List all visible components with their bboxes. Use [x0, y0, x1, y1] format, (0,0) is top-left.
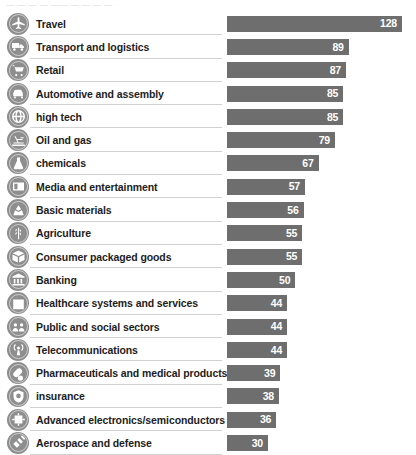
bar-track: 38 [227, 385, 416, 408]
category-label: insurance [36, 390, 85, 402]
bar-track: 57 [227, 175, 416, 198]
chart-row: Banking50 [0, 268, 416, 291]
value-label: 87 [330, 65, 341, 76]
bar-track: 36 [227, 408, 416, 431]
value-bar: 57 [227, 179, 305, 195]
minerals-icon [7, 199, 29, 221]
value-bar: 85 [227, 86, 343, 102]
value-label: 30 [252, 438, 263, 449]
category-label: Telecommunications [36, 344, 138, 356]
chart-row: Agriculture55 [0, 222, 416, 245]
bar-track: 44 [227, 292, 416, 315]
value-bar: 50 [227, 272, 295, 288]
value-label: 44 [271, 345, 282, 356]
category-label: Retail [36, 64, 64, 76]
value-label: 79 [319, 135, 330, 146]
clipped-header-strip: — — — — —— — — — — [6, 0, 410, 8]
category-label: Basic materials [36, 204, 112, 216]
bar-track: 55 [227, 245, 416, 268]
value-bar: 55 [227, 225, 302, 241]
category-label: Healthcare systems and services [36, 297, 198, 309]
category-label: Media and entertainment [36, 181, 157, 193]
category-label: Consumer packaged goods [36, 251, 171, 263]
value-bar: 44 [227, 295, 287, 311]
pill-icon [7, 362, 29, 384]
value-label: 128 [380, 18, 397, 29]
chart-row: Healthcare systems and services44 [0, 292, 416, 315]
value-label: 55 [286, 228, 297, 239]
car-icon [7, 83, 29, 105]
value-bar: 55 [227, 249, 302, 265]
category-label: Automotive and assembly [36, 88, 164, 100]
airplane-icon [7, 13, 29, 35]
value-label: 56 [287, 205, 298, 216]
category-label: Travel [36, 18, 66, 30]
chart-row: Telecommunications44 [0, 338, 416, 361]
package-icon [7, 246, 29, 268]
chip-icon [7, 409, 29, 431]
oil-rig-icon [7, 129, 29, 151]
antenna-icon [7, 339, 29, 361]
value-label: 44 [271, 298, 282, 309]
bank-icon [7, 269, 29, 291]
bar-track: 85 [227, 82, 416, 105]
bar-track: 55 [227, 222, 416, 245]
chart-row: Aerospace and defense30 [0, 431, 416, 454]
chart-row: chemicals67 [0, 152, 416, 175]
value-bar: 39 [227, 365, 280, 381]
bar-track: 56 [227, 198, 416, 221]
value-bar: 79 [227, 132, 335, 148]
row-separator [30, 454, 222, 455]
category-label: Transport and logistics [36, 41, 149, 53]
chart-row: Basic materials56 [0, 198, 416, 221]
value-bar: 89 [227, 39, 349, 55]
value-label: 85 [327, 112, 338, 123]
bar-track: 87 [227, 59, 416, 82]
bar-track: 79 [227, 128, 416, 151]
chart-row: Oil and gas79 [0, 128, 416, 151]
bar-track: 128 [227, 12, 416, 35]
value-label: 50 [279, 275, 290, 286]
category-label: chemicals [36, 157, 86, 169]
bar-track: 50 [227, 268, 416, 291]
chart-row: Travel128 [0, 12, 416, 35]
satellite-icon [7, 432, 29, 454]
shopping-cart-icon [7, 59, 29, 81]
chart-row: Media and entertainment57 [0, 175, 416, 198]
flask-icon [7, 152, 29, 174]
value-bar: 44 [227, 342, 287, 358]
globe-icon [7, 106, 29, 128]
category-label: Banking [36, 274, 77, 286]
chart-row: Advanced electronics/semiconductors36 [0, 408, 416, 431]
category-label: Pharmaceuticals and medical products [36, 367, 227, 379]
media-icon [7, 176, 29, 198]
value-bar: 128 [227, 16, 402, 32]
category-label: Aerospace and defense [36, 437, 152, 449]
value-bar: 56 [227, 202, 304, 218]
chart-row: Automotive and assembly85 [0, 82, 416, 105]
chart-row-list: Travel128Transport and logistics89Retail… [0, 12, 416, 455]
value-label: 39 [264, 368, 275, 379]
bar-track: 67 [227, 152, 416, 175]
chart-row: insurance38 [0, 385, 416, 408]
category-label: Public and social sectors [36, 321, 160, 333]
value-label: 67 [302, 158, 313, 169]
category-label: Oil and gas [36, 134, 92, 146]
value-bar: 67 [227, 155, 319, 171]
category-label: Agriculture [36, 227, 91, 239]
category-label: high tech [36, 111, 82, 123]
category-label: Advanced electronics/semiconductors [36, 414, 225, 426]
bar-track: 44 [227, 315, 416, 338]
value-label: 57 [289, 181, 300, 192]
chart-row: Pharmaceuticals and medical products39 [0, 361, 416, 384]
chart-row: high tech85 [0, 105, 416, 128]
truck-icon [7, 36, 29, 58]
chart-row: Consumer packaged goods55 [0, 245, 416, 268]
hospital-icon [7, 292, 29, 314]
bar-track: 44 [227, 338, 416, 361]
value-bar: 44 [227, 319, 287, 335]
chart-row: Transport and logistics89 [0, 35, 416, 58]
bar-track: 39 [227, 361, 416, 384]
value-label: 44 [271, 321, 282, 332]
